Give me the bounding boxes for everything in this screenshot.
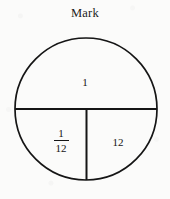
slice-label-top-half: 1 [62, 76, 108, 89]
fraction-denominator: 12 [54, 142, 69, 154]
fraction-numerator: 1 [54, 127, 69, 139]
slice-label-bottom-right: 12 [98, 136, 138, 149]
pie-chart-figure: Mark 1 12 1 12 [0, 0, 170, 199]
fraction-one-twelfth: 1 12 [54, 127, 69, 154]
slice-label-bottom-left: 1 12 [44, 127, 78, 154]
pie-diagram [0, 0, 170, 199]
fraction-bar [54, 140, 69, 141]
